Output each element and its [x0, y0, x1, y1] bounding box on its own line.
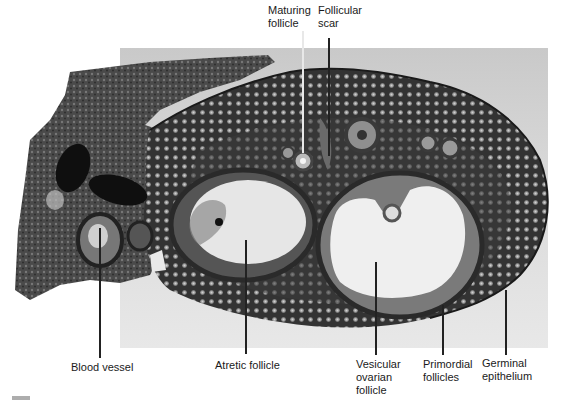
label-germinal-epithelium: Germinal epithelium [482, 357, 532, 383]
leader-maturing-follicle [302, 31, 304, 153]
ovary-micrograph [0, 0, 562, 404]
label-atretic-follicle: Atretic follicle [215, 359, 280, 372]
label-maturing-follicle: Maturing follicle [268, 4, 311, 30]
label-blood-vessel: Blood vessel [71, 361, 133, 374]
leader-follicular-scar [328, 38, 330, 156]
leader-germinal-epithelium [505, 290, 507, 355]
label-primordial-follicles: Primordial follicles [423, 358, 473, 384]
figure: Maturing follicle Follicular scar Blood … [0, 0, 562, 404]
leader-blood-vessel [99, 228, 101, 358]
page-mark [12, 396, 30, 400]
oocyte [384, 205, 400, 221]
leader-atretic-follicle [245, 240, 247, 354]
leader-primordial-follicles [442, 305, 444, 355]
label-follicular-scar: Follicular scar [318, 4, 362, 30]
leader-vesicular-follicle [375, 262, 377, 355]
label-vesicular-ovarian-follicle: Vesicular ovarian follicle [356, 358, 401, 397]
